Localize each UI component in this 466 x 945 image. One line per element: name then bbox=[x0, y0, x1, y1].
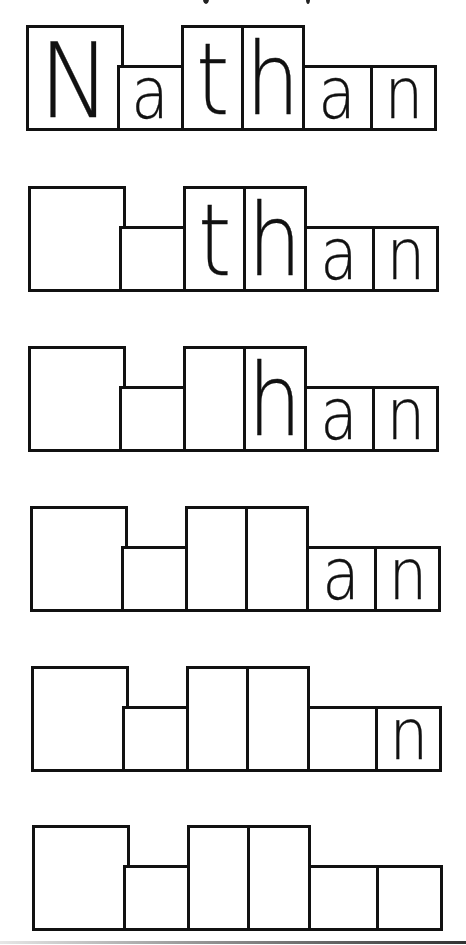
letter-box-h4[interactable]: h bbox=[243, 186, 307, 292]
letter-box-n1[interactable]: N bbox=[26, 25, 124, 131]
letter-box-n1[interactable] bbox=[28, 186, 126, 292]
letter-glyph: h bbox=[246, 30, 300, 130]
letter-glyph: n bbox=[384, 65, 423, 129]
letter-box-a5[interactable]: a bbox=[306, 546, 378, 612]
tracing-row-4: an bbox=[30, 506, 450, 612]
letter-box-t3[interactable] bbox=[187, 825, 251, 931]
letter-glyph: t bbox=[198, 191, 231, 291]
letter-box-n6[interactable]: n bbox=[374, 546, 441, 612]
letter-box-t3[interactable] bbox=[185, 506, 249, 612]
letter-glyph: a bbox=[132, 65, 170, 129]
letter-box-a2[interactable] bbox=[123, 865, 190, 931]
letter-glyph: a bbox=[321, 226, 359, 290]
letter-box-t3[interactable]: t bbox=[181, 25, 245, 131]
letter-box-a2[interactable]: a bbox=[117, 65, 184, 131]
letter-box-n1[interactable] bbox=[28, 346, 126, 452]
letter-box-n1[interactable] bbox=[31, 666, 129, 772]
letter-box-t3[interactable] bbox=[186, 666, 250, 772]
letter-box-t3[interactable] bbox=[183, 346, 247, 452]
header-text-fragment bbox=[306, 0, 310, 4]
letter-box-h4[interactable] bbox=[247, 825, 311, 931]
letter-box-a2[interactable] bbox=[121, 546, 188, 612]
tracing-row-3: han bbox=[28, 346, 448, 452]
letter-box-a2[interactable] bbox=[119, 386, 186, 452]
letter-box-a5[interactable] bbox=[308, 865, 380, 931]
letter-glyph: h bbox=[248, 191, 302, 291]
letter-box-t3[interactable]: t bbox=[183, 186, 247, 292]
letter-box-n6[interactable]: n bbox=[375, 706, 442, 772]
letter-glyph: n bbox=[388, 546, 427, 610]
letter-box-a5[interactable]: a bbox=[304, 386, 376, 452]
letter-glyph: a bbox=[319, 65, 357, 129]
letter-glyph: a bbox=[323, 546, 361, 610]
letter-box-h4[interactable] bbox=[245, 506, 309, 612]
letter-box-h4[interactable]: h bbox=[243, 346, 307, 452]
letter-box-n1[interactable] bbox=[30, 506, 128, 612]
page-edge-divider bbox=[0, 941, 466, 944]
tracing-row-2: than bbox=[28, 186, 448, 292]
letter-box-h4[interactable] bbox=[246, 666, 310, 772]
letter-box-a2[interactable] bbox=[122, 706, 189, 772]
letter-glyph: n bbox=[386, 226, 425, 290]
header-text-fragment bbox=[203, 0, 209, 4]
letter-box-a5[interactable] bbox=[307, 706, 379, 772]
tracing-row-1: Nathan bbox=[26, 25, 446, 131]
letter-glyph: N bbox=[39, 29, 111, 131]
letter-box-n6[interactable] bbox=[376, 865, 443, 931]
letter-box-n1[interactable] bbox=[32, 825, 130, 931]
letter-box-n6[interactable]: n bbox=[370, 65, 437, 131]
letter-glyph: t bbox=[196, 30, 229, 130]
letter-glyph: a bbox=[321, 386, 359, 450]
letter-box-a2[interactable] bbox=[119, 226, 186, 292]
tracing-row-5: n bbox=[31, 666, 451, 772]
letter-box-h4[interactable]: h bbox=[241, 25, 305, 131]
letter-box-n6[interactable]: n bbox=[372, 386, 439, 452]
letter-box-n6[interactable]: n bbox=[372, 226, 439, 292]
letter-box-a5[interactable]: a bbox=[304, 226, 376, 292]
letter-glyph: n bbox=[386, 386, 425, 450]
letter-glyph: h bbox=[248, 351, 302, 451]
letter-glyph: n bbox=[389, 706, 428, 770]
tracing-row-6 bbox=[32, 825, 452, 931]
letter-box-a5[interactable]: a bbox=[302, 65, 374, 131]
